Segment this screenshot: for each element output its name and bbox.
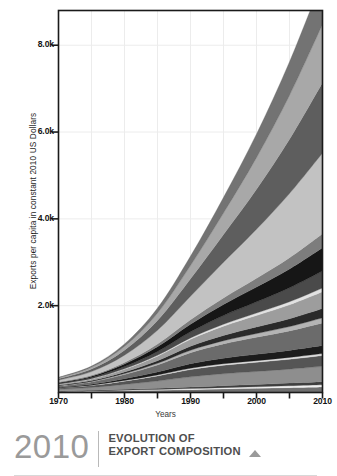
stacked-area-chart <box>0 0 331 420</box>
y-tick-label: 4.0k <box>20 213 54 223</box>
caption-line-2: EXPORT COMPOSITION <box>108 445 240 458</box>
x-tick-label: 1980 <box>105 396 145 406</box>
y-tick-label: 2.0k <box>20 300 54 310</box>
caption-text: EVOLUTION OF EXPORT COMPOSITION <box>99 432 260 458</box>
x-tick-label: 1990 <box>171 396 211 406</box>
x-tick-label: 1970 <box>39 396 79 406</box>
y-tick-label: 8.0k <box>20 39 54 49</box>
caption-year: 2010 <box>14 430 98 464</box>
caption-title: EVOLUTION OF EXPORT COMPOSITION <box>108 432 240 458</box>
chart-plot-area: Exports per capita in constant 2010 US D… <box>0 0 331 420</box>
y-tick-label: 6.0k <box>20 126 54 136</box>
triangle-up-icon <box>249 450 261 457</box>
caption-line-1: EVOLUTION OF <box>108 432 240 445</box>
x-tick-label: 2000 <box>237 396 277 406</box>
figure-caption: 2010 EVOLUTION OF EXPORT COMPOSITION <box>0 428 331 476</box>
x-tick-label: 2010 <box>303 396 337 406</box>
x-axis-label: Years <box>0 410 331 419</box>
